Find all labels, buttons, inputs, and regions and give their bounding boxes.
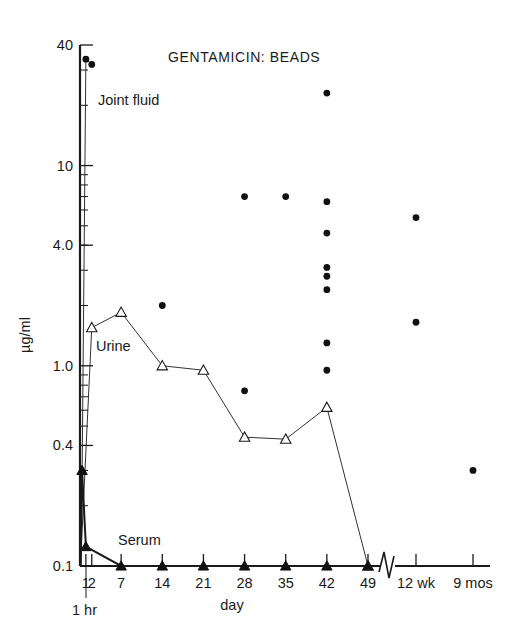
- x-tick-label: 7: [117, 575, 125, 591]
- x-tick-label: 35: [278, 575, 294, 591]
- y-tick-label: 0.1: [53, 558, 73, 574]
- urine-marker: [322, 402, 332, 411]
- urine-marker: [157, 361, 167, 370]
- y-axis-title: µg/ml: [17, 317, 33, 353]
- x-tick-label-group: 12714212835424912 wk9 mos: [82, 575, 493, 591]
- x-tick-label: 28: [237, 575, 253, 591]
- data-point-circle: [82, 56, 89, 63]
- serum-polyline: [80, 470, 368, 566]
- x-tick-label: 9 mos: [453, 575, 493, 591]
- data-point-circle: [323, 367, 330, 374]
- y-tick-label-group: 40104.01.00.40.1: [53, 37, 73, 574]
- y-tick-label: 0.4: [53, 437, 73, 453]
- serum-marker: [81, 541, 91, 550]
- x-tick-label: 21: [195, 575, 211, 591]
- data-point-circle: [159, 302, 166, 309]
- data-point-circle: [282, 193, 289, 200]
- data-point-circle: [413, 319, 420, 326]
- x-tick-label: 2: [88, 575, 96, 591]
- one-hour-annotation: 1 hr: [72, 602, 97, 618]
- urine-label: Urine: [96, 338, 131, 354]
- urine-marker: [116, 307, 126, 316]
- x-tick-label: 12 wk: [397, 575, 436, 591]
- x-tick-label: 49: [360, 575, 376, 591]
- data-point-circle: [323, 198, 330, 205]
- x-axis-title: day: [220, 597, 244, 613]
- gentamicin-beads-figure: 40104.01.00.40.1 12714212835424912 wk9 m…: [0, 0, 505, 644]
- x-tick-label: 14: [154, 575, 170, 591]
- data-point-circle: [241, 193, 248, 200]
- data-point-circle: [88, 61, 95, 68]
- data-point-circle: [323, 230, 330, 237]
- axes-group: [80, 45, 490, 578]
- serum-label: Serum: [118, 532, 161, 548]
- data-point-circle: [323, 264, 330, 271]
- y-tick-label: 40: [57, 37, 73, 53]
- data-point-circle: [413, 214, 420, 221]
- data-point-circle: [470, 467, 477, 474]
- urine-marker: [239, 432, 249, 441]
- joint-fluid-series: [81, 56, 476, 566]
- data-point-circle: [323, 286, 330, 293]
- urine-marker: [87, 322, 97, 331]
- data-point-circle: [323, 340, 330, 347]
- chart-title: GENTAMICIN: BEADS: [168, 49, 320, 65]
- x-tick-label: 42: [319, 575, 335, 591]
- data-point-circle: [323, 273, 330, 280]
- axis-break-icon: [379, 552, 394, 578]
- y-tick-label: 10: [57, 158, 73, 174]
- y-tick-label: 1.0: [53, 358, 73, 374]
- data-point-circle: [323, 90, 330, 97]
- chart-canvas: 40104.01.00.40.1 12714212835424912 wk9 m…: [0, 0, 505, 644]
- joint-fluid-label: Joint fluid: [98, 92, 159, 108]
- data-point-circle: [241, 387, 248, 394]
- y-tick-label: 4.0: [53, 237, 73, 253]
- x-tick-group: [86, 554, 473, 566]
